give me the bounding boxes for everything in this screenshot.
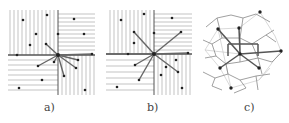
site-point [180, 31, 183, 34]
site-point [216, 27, 219, 30]
site-point [279, 49, 282, 52]
voronoi-edge [212, 78, 215, 86]
site-point [84, 89, 87, 92]
site-point [16, 54, 19, 57]
neighbor-edge [58, 54, 92, 55]
site-point [177, 71, 180, 74]
site-point [75, 67, 78, 70]
site-point [77, 59, 80, 62]
site-point [116, 86, 119, 89]
voronoi-edge [256, 14, 270, 22]
site-point [41, 79, 44, 82]
panel-b-caption: b) [147, 101, 158, 114]
site-point [238, 52, 241, 55]
primary-edge [240, 51, 281, 54]
delaunay-edge [260, 12, 275, 36]
site-point [153, 32, 156, 35]
neighbor-edge [46, 44, 58, 55]
site-point [165, 66, 168, 69]
neighbor-edge [154, 53, 188, 54]
panel-a-diagram [8, 10, 95, 95]
delaunay-edge [259, 51, 281, 80]
voronoi-edge [212, 44, 216, 56]
voronoi-edge [252, 35, 266, 44]
voronoi-edge [266, 35, 276, 42]
site-point [143, 13, 146, 16]
panel-c-voronoi-diagram [203, 10, 283, 93]
panel-a-caption: a) [44, 101, 55, 114]
site-point [46, 14, 49, 17]
voronoi-edge [234, 88, 246, 93]
center-point [56, 53, 60, 57]
voronoi-edge [256, 76, 258, 90]
site-point [53, 61, 56, 64]
voronoi-edge [240, 38, 252, 44]
site-point [91, 53, 94, 56]
site-point [171, 17, 174, 20]
center-point [152, 52, 156, 56]
site-point [134, 64, 137, 67]
primary-edge [239, 28, 240, 54]
site-point [258, 10, 261, 13]
site-point [127, 53, 130, 56]
site-point [133, 31, 136, 34]
voronoi-edge [231, 15, 243, 18]
panel-c-caption: c) [244, 101, 254, 114]
site-point [187, 52, 190, 55]
voronoi-edge [228, 74, 240, 80]
site-point [73, 18, 76, 21]
delaunay-edge [205, 29, 218, 50]
voronoi-edge [217, 15, 231, 18]
site-point [37, 65, 40, 68]
site-point [29, 44, 32, 47]
site-point [18, 87, 21, 90]
panel-b-diagram [106, 10, 192, 95]
primary-edge [218, 29, 240, 54]
voronoi-edge [258, 58, 262, 74]
site-point [218, 66, 221, 69]
delaunay-edge [205, 50, 220, 68]
site-point [83, 33, 86, 36]
site-point [120, 19, 123, 22]
site-point [57, 33, 60, 36]
delaunay-edge [220, 68, 231, 88]
site-point [138, 79, 141, 82]
delaunay-edge [218, 28, 239, 29]
neighbor-edge [154, 32, 181, 54]
voronoi-edge [212, 86, 222, 90]
site-point [237, 26, 240, 29]
delaunay-edge [275, 36, 281, 51]
voronoi-edge [243, 14, 256, 18]
site-point [35, 33, 38, 36]
voronoi-edge [226, 64, 228, 74]
voronoi-edge [240, 76, 256, 80]
site-point [45, 43, 48, 46]
voronoi-edge [258, 58, 272, 62]
site-point [160, 74, 163, 77]
site-point [63, 75, 66, 78]
site-point [229, 86, 232, 89]
site-point [133, 42, 136, 45]
voronoi-edge [206, 18, 217, 27]
site-point [257, 66, 260, 69]
neighbor-edge [134, 32, 154, 54]
site-point [181, 87, 184, 90]
voronoi-edge [203, 72, 215, 78]
voronoi-edge [272, 52, 282, 62]
primary-edge [220, 54, 240, 68]
site-point [22, 19, 25, 22]
voronoi-edge [215, 74, 228, 78]
voronoi-edge [252, 44, 258, 58]
site-point [175, 59, 178, 62]
